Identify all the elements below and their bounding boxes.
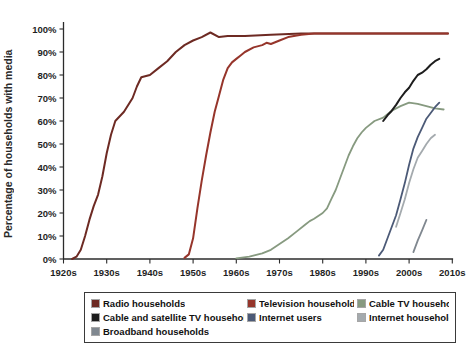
legend-marker-broadband-households (92, 328, 99, 335)
legend-item-internet-households: Internet households (358, 312, 449, 323)
legend-label: Broadband households (103, 326, 209, 337)
legend-item-broadband-households: Broadband households (92, 326, 244, 337)
x-tick-label: 1990s (353, 267, 379, 278)
legend-label: Internet users (259, 312, 322, 323)
x-tick-label: 1920s (50, 267, 76, 278)
x-tick-label: 2010s (439, 267, 465, 278)
y-tick-label: 80% (37, 70, 57, 81)
legend-marker-cable-tv-households (358, 300, 365, 307)
legend-label: Cable and satellite TV households (103, 312, 244, 323)
x-tick-label: 1960s (223, 267, 249, 278)
legend-item-radio-households: Radio households (92, 298, 244, 309)
x-tick-label: 2000s (396, 267, 422, 278)
y-tick-label: 40% (37, 162, 57, 173)
series-line-broadband-households (413, 220, 426, 252)
legend-item-television-households: Television households (248, 298, 354, 309)
legend-marker-cable-satellite-tv-households (92, 314, 99, 321)
legend-label: Television households (259, 298, 354, 309)
legend-marker-internet-users (248, 314, 255, 321)
legend-item-internet-users: Internet users (248, 312, 354, 323)
y-tick-label: 10% (37, 231, 57, 242)
legend-marker-internet-households (358, 314, 365, 321)
x-tick-label: 1930s (93, 267, 119, 278)
x-tick-label: 1980s (309, 267, 335, 278)
chart-legend: Radio householdsTelevision householdsCab… (84, 292, 456, 343)
legend-item-cable-tv-households: Cable TV households (358, 298, 449, 309)
legend-label: Internet households (369, 312, 449, 323)
chart-plot-area: 0%10%20%30%40%50%60%70%80%90%100%1920s19… (0, 0, 473, 290)
series-line-television-households (185, 34, 449, 258)
series-line-internet-users (379, 103, 439, 256)
y-tick-label: 0% (43, 254, 57, 265)
y-tick-label: 30% (37, 185, 57, 196)
legend-item-cable-satellite-tv-households: Cable and satellite TV households (92, 312, 244, 323)
legend-marker-radio-households (92, 300, 99, 307)
legend-label: Cable TV households (369, 298, 449, 309)
y-tick-label: 100% (32, 24, 57, 35)
legend-label: Radio households (103, 298, 185, 309)
x-tick-label: 1940s (137, 267, 163, 278)
y-tick-label: 60% (37, 116, 57, 127)
y-tick-label: 20% (37, 208, 57, 219)
legend-marker-television-households (248, 300, 255, 307)
x-tick-label: 1970s (266, 267, 292, 278)
y-tick-label: 90% (37, 47, 57, 58)
media-adoption-chart: Percentage of households with media 0%10… (0, 0, 473, 345)
series-line-internet-households (396, 135, 435, 227)
series-line-cable-tv-households (236, 103, 443, 259)
x-tick-label: 1950s (180, 267, 206, 278)
y-tick-label: 70% (37, 93, 57, 104)
y-tick-label: 50% (37, 139, 57, 150)
